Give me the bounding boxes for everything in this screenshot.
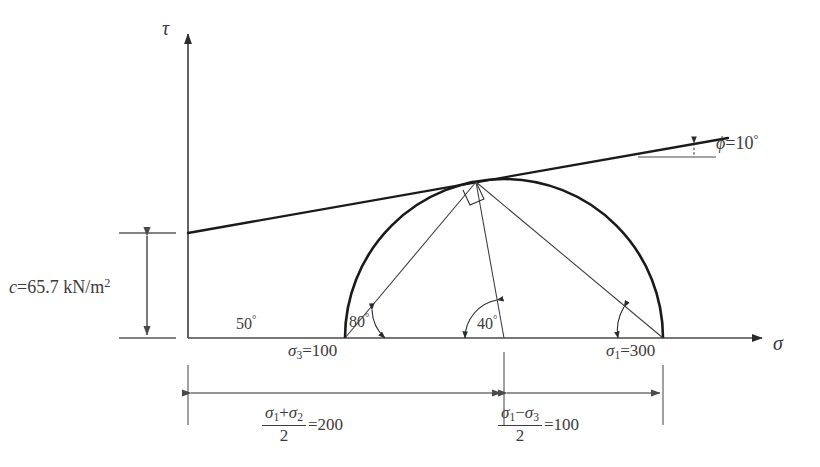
fraction-right: σ1−σ3 2: [498, 404, 542, 445]
angle-50-value: 50: [236, 315, 252, 332]
angle-label-40: 40°: [477, 313, 497, 333]
dimension-left-equals: =: [308, 415, 318, 435]
dimension-label-right: σ1−σ3 2 =100: [498, 404, 579, 445]
bottom-dimension-group: [188, 352, 663, 425]
cohesion-unit: kN/m: [63, 277, 104, 297]
fraction-right-denominator: 2: [516, 426, 525, 445]
sigma-subscript: 2: [297, 411, 303, 424]
sigma3-point-label: σ3=100: [288, 341, 337, 362]
phi-equals: =: [725, 133, 735, 153]
sigma-symbol: σ: [525, 403, 533, 422]
phi-angle-label: ϕ=10°: [716, 132, 758, 154]
sigma-symbol: σ: [289, 403, 297, 422]
phi-angle-callout: [638, 143, 716, 157]
dimension-left-value: 200: [318, 415, 344, 435]
chord-sigma1-to-tangent: [476, 182, 663, 338]
dimension-right-value: 100: [554, 415, 580, 435]
fraction-left: σ1+σ2 2: [262, 404, 306, 445]
phi-value: 10: [735, 133, 753, 153]
angle-40-value: 40: [477, 315, 493, 332]
angle-80-value: 80: [349, 313, 365, 330]
degree-icon: °: [365, 311, 369, 323]
sigma1-equals: =: [620, 341, 630, 360]
angle-label-80: 80°: [349, 311, 369, 331]
mohr-circle-arc: [345, 179, 663, 338]
dimension-right-equals: =: [544, 415, 554, 435]
construction-lines-group: [345, 182, 663, 338]
angle-arc-40: [617, 307, 624, 338]
axis-group: [188, 34, 762, 338]
fraction-right-operator: −: [515, 403, 525, 422]
figure-canvas: τ σ ϕ=10° c=65.7 kN/m2 50° 80° 40° σ3=10…: [0, 0, 820, 467]
cohesion-unit-exponent: 2: [104, 276, 110, 290]
mohr-circle-svg: [0, 0, 820, 467]
phi-symbol: ϕ: [716, 133, 725, 153]
sigma1-value: 300: [630, 341, 656, 360]
sigma-subscript: 3: [533, 411, 539, 424]
fraction-right-numerator: σ1−σ3: [498, 404, 542, 426]
fraction-left-operator: +: [279, 403, 289, 422]
dimension-label-left: σ1+σ2 2 =200: [262, 404, 343, 445]
angle-arc-50: [372, 310, 385, 338]
cohesion-dimension-group: [119, 233, 176, 338]
degree-icon: °: [252, 313, 256, 325]
cohesion-value: 65.7: [27, 277, 59, 297]
fraction-left-denominator: 2: [280, 426, 289, 445]
angle-label-50: 50°: [236, 313, 256, 333]
degree-icon: °: [753, 132, 758, 146]
sigma3-equals: =: [302, 341, 312, 360]
sigma1-point-label: σ1=300: [606, 341, 655, 362]
sigma-axis-label: σ: [773, 332, 783, 355]
cohesion-equals: =: [17, 277, 27, 297]
fraction-left-numerator: σ1+σ2: [262, 404, 306, 426]
cohesion-symbol: c: [9, 277, 17, 297]
degree-icon: °: [493, 313, 497, 325]
cohesion-label: c=65.7 kN/m2: [9, 276, 110, 298]
sigma3-value: 100: [312, 341, 338, 360]
tau-axis-label: τ: [162, 17, 169, 40]
